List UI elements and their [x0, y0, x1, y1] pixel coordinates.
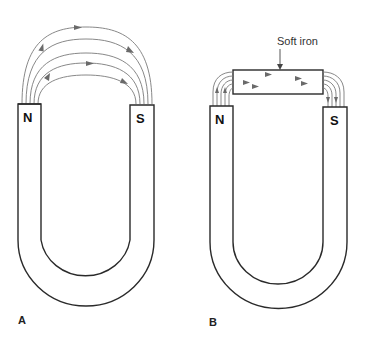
- south-pole-label-b: S: [330, 113, 339, 128]
- field-lines-b-right: [323, 72, 344, 107]
- panel-label-a: A: [18, 314, 26, 326]
- panel-a: N S A: [18, 25, 154, 326]
- field-lines-b-left: [213, 72, 233, 106]
- panel-b: Soft iron: [209, 35, 347, 328]
- south-pole-label-a: S: [136, 111, 145, 126]
- magnet-diagram: N S A Soft iron: [0, 0, 368, 344]
- panel-label-b: B: [209, 316, 217, 328]
- callout-arrow-icon: [277, 64, 283, 70]
- horseshoe-magnet-a: [18, 104, 154, 306]
- arrow-icons-bar: [243, 72, 308, 89]
- north-pole-label-b: N: [215, 112, 224, 127]
- horseshoe-magnet-b: [210, 106, 347, 308]
- soft-iron-callout: Soft iron: [277, 35, 318, 47]
- north-pole-label-a: N: [23, 110, 32, 125]
